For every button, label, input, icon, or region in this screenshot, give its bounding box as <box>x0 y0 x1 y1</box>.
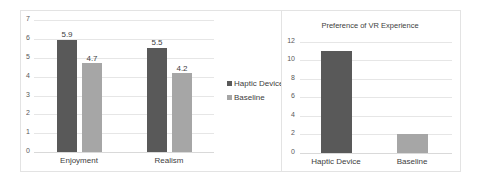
y-tick: 4 <box>281 111 295 118</box>
gridline <box>300 42 452 43</box>
data-label: 4.2 <box>167 64 197 73</box>
y-tick: 2 <box>281 129 295 136</box>
bar-realism-haptic <box>147 48 167 152</box>
y-tick: 4 <box>16 72 30 79</box>
data-label: 5.5 <box>142 38 172 47</box>
data-label: 5.9 <box>52 30 82 39</box>
y-tick: 8 <box>281 74 295 81</box>
bar-realism-baseline <box>172 73 192 152</box>
x-label-haptic-device: Haptic Device <box>296 157 376 166</box>
x-axis-line <box>34 152 214 153</box>
legend-label: Haptic Device <box>234 79 283 88</box>
legend-label: Baseline <box>234 93 265 102</box>
x-label-enjoyment: Enjoyment <box>39 156 119 165</box>
y-tick: 7 <box>16 15 30 22</box>
legend-item-baseline: Baseline <box>227 93 265 102</box>
y-tick: 12 <box>281 37 295 44</box>
right-chart-frame <box>281 10 461 172</box>
y-tick: 0 <box>16 147 30 154</box>
y-tick: 5 <box>16 53 30 60</box>
x-label-realism: Realism <box>129 156 209 165</box>
y-tick: 6 <box>16 34 30 41</box>
y-tick: 10 <box>281 55 295 62</box>
bar-haptic-device <box>321 51 352 153</box>
y-tick: 3 <box>16 91 30 98</box>
bar-enjoyment-baseline <box>82 63 102 152</box>
legend-swatch-haptic <box>227 81 232 86</box>
chart-title: Preference of VR Experience <box>281 21 459 30</box>
x-label-baseline: Baseline <box>372 157 452 166</box>
x-axis-line <box>300 153 452 154</box>
bar-enjoyment-haptic <box>57 40 77 152</box>
y-tick: 6 <box>281 92 295 99</box>
gridline <box>34 20 214 21</box>
legend-item-haptic: Haptic Device <box>227 79 283 88</box>
data-label: 4.7 <box>77 54 107 63</box>
y-tick: 0 <box>281 148 295 155</box>
legend-swatch-baseline <box>227 95 232 100</box>
y-tick: 2 <box>16 109 30 116</box>
y-tick: 1 <box>16 128 30 135</box>
bar-baseline <box>397 134 428 153</box>
